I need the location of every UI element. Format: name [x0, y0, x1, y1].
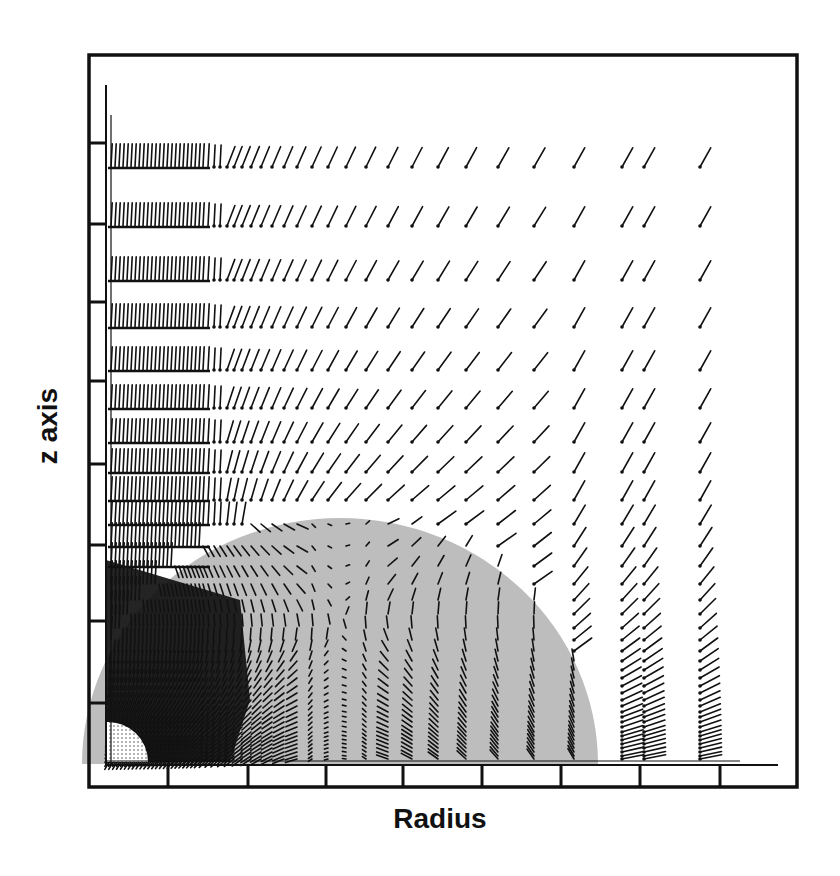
x-axis-label: Radius	[0, 803, 840, 835]
vector-field-plot	[0, 0, 840, 876]
y-axis-label: z axis	[32, 388, 64, 464]
